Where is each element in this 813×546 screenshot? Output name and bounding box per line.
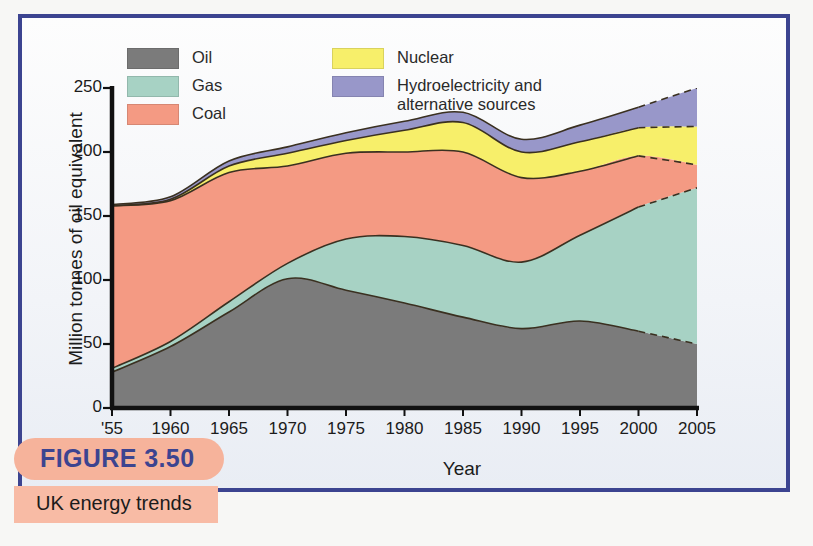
x-tick-label: 1965 [197, 419, 261, 439]
y-tick-label: 50 [46, 333, 102, 353]
x-tick-label: 1980 [373, 419, 437, 439]
y-tick-label: 150 [46, 205, 102, 225]
y-tick-label: 250 [46, 77, 102, 97]
x-tick-label: '55 [80, 419, 144, 439]
x-tick-label: 2005 [665, 419, 729, 439]
energy-area-chart [22, 18, 786, 488]
x-tick-label: 1960 [139, 419, 203, 439]
x-tick-label: 2000 [607, 419, 671, 439]
x-tick-label: 1990 [490, 419, 554, 439]
figure-caption: UK energy trends [14, 486, 218, 523]
y-tick-label: 0 [46, 397, 102, 417]
scan-page: Oil Gas Coal Nuclear [0, 0, 813, 546]
x-tick-label: 1985 [431, 419, 495, 439]
y-tick-label: 200 [46, 141, 102, 161]
x-tick-label: 1995 [548, 419, 612, 439]
figure-background: Oil Gas Coal Nuclear [22, 18, 786, 488]
y-tick-label: 100 [46, 269, 102, 289]
figure-frame: Oil Gas Coal Nuclear [18, 14, 790, 492]
x-axis-title: Year [332, 458, 592, 480]
figure-number: FIGURE 3.50 [14, 438, 224, 480]
x-tick-label: 1970 [256, 419, 320, 439]
x-tick-label: 1975 [314, 419, 378, 439]
chart-areas [112, 88, 697, 408]
